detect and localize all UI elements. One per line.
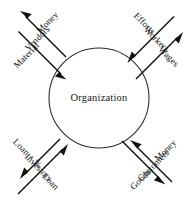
organization-flow-diagram: Organization Money Vendors Material: [0, 0, 193, 200]
arrowhead-loan-interest-out: [20, 168, 29, 180]
arrowhead-money-in: [130, 140, 142, 149]
flow-label-loan-investors: Loan: [40, 171, 61, 192]
arrowhead-loan-in: [60, 144, 68, 156]
organization-center-label: Organization: [70, 92, 128, 103]
arrowhead-wages-out: [175, 32, 183, 44]
diagram-canvas: Organization Money Vendors Material: [0, 0, 193, 200]
quadrant-workers: Efforts Workers Wages: [128, 11, 184, 79]
quadrant-investors: Loan + % Investors Loan: [11, 137, 68, 194]
quadrant-customers: Money Customers Goods: [122, 137, 179, 191]
arrowhead-goods-out: [154, 176, 166, 184]
